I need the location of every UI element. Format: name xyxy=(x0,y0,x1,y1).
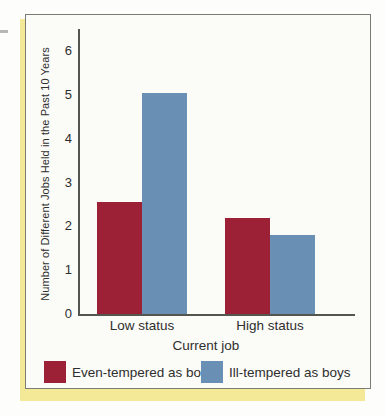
figure-box: Number of Different Jobs Held in the Pas… xyxy=(25,14,371,389)
legend-item: Ill-tempered as boys xyxy=(201,361,351,383)
bar-ill-tempered-low xyxy=(142,93,187,314)
legend-label: Ill-tempered as boys xyxy=(229,365,351,380)
legend-item: Even-tempered as boys xyxy=(44,361,215,383)
x-category-label: High status xyxy=(210,318,330,333)
x-axis-line xyxy=(78,314,355,316)
y-tick-label: 1 xyxy=(26,262,72,278)
bar-even-tempered-high xyxy=(225,218,270,314)
bar-even-tempered-low xyxy=(97,202,142,314)
legend-swatch xyxy=(44,361,66,383)
y-tick-label: 5 xyxy=(26,87,72,103)
plot-area xyxy=(78,29,355,314)
x-axis-title: Current job xyxy=(146,338,266,353)
legend-label: Even-tempered as boys xyxy=(72,365,215,380)
scan-mark xyxy=(0,30,8,33)
bar-ill-tempered-high xyxy=(270,235,315,314)
y-tick-label: 3 xyxy=(26,175,72,191)
y-tick-label: 4 xyxy=(26,131,72,147)
legend-swatch xyxy=(201,361,223,383)
y-tick-label: 0 xyxy=(26,306,72,322)
y-tick-label: 2 xyxy=(26,218,72,234)
y-tick-label: 6 xyxy=(26,43,72,59)
page: { "figure": { "background": "#fbfbf8", "… xyxy=(0,0,386,416)
x-category-label: Low status xyxy=(82,318,202,333)
